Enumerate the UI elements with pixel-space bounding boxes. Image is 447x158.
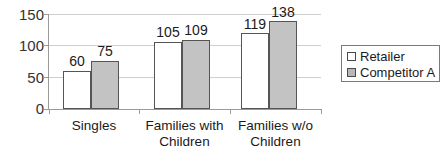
bar-families-wo-children-competitor-a	[269, 21, 297, 109]
x-axis-category-label-families-wo-children: Families w/o Children	[230, 118, 321, 150]
y-axis-tick-label-150: 150	[0, 7, 44, 22]
category-label-families-with-children-line-1: Families with	[145, 118, 223, 133]
bar-label-families-wo-children-retailer: 119	[235, 17, 275, 31]
x-axis-tick-sep-1	[139, 109, 140, 114]
x-axis-category-label-singles: Singles	[49, 118, 139, 134]
category-label-families-with-children-line-2: Children	[139, 134, 230, 150]
x-axis-tick-sep-2	[230, 109, 231, 114]
legend-label-competitor-a: Competitor A	[360, 66, 435, 79]
legend-swatch-competitor-a-icon	[347, 68, 356, 77]
bar-singles-competitor-a	[91, 61, 119, 109]
plot-area: 60 75 105 109 119 138	[49, 14, 321, 109]
bar-label-families-with-children-competitor-a: 109	[176, 23, 216, 37]
x-axis-category-label-families-with-children: Families with Children	[139, 118, 230, 150]
bar-singles-retailer	[63, 71, 91, 109]
legend-swatch-retailer-icon	[347, 52, 356, 61]
category-label-singles-line-1: Singles	[72, 118, 116, 133]
bar-families-with-children-competitor-a	[182, 40, 210, 109]
x-axis-tick-end	[321, 109, 322, 114]
chart-legend: Retailer Competitor A	[341, 45, 440, 82]
y-axis-tick-label-100: 100	[0, 38, 44, 53]
legend-label-retailer: Retailer	[360, 50, 405, 63]
legend-item-competitor-a[interactable]: Competitor A	[347, 65, 439, 80]
bar-label-families-wo-children-competitor-a: 138	[263, 5, 303, 19]
category-label-families-wo-children-line-1: Families w/o	[238, 118, 313, 133]
y-axis-tick-label-50: 50	[0, 70, 44, 85]
y-axis-tick-labels: 150 100 50 0	[0, 0, 44, 158]
bar-families-wo-children-retailer	[241, 33, 269, 109]
category-label-families-wo-children-line-2: Children	[230, 134, 321, 150]
bar-label-singles-competitor-a: 75	[87, 44, 123, 58]
bar-chart: 150 100 50 0 60 75 105 109 119 138 Sing	[0, 0, 447, 158]
x-axis-tick-start	[49, 109, 50, 114]
legend-item-retailer[interactable]: Retailer	[347, 49, 439, 64]
bar-families-with-children-retailer	[154, 42, 182, 109]
x-axis-line	[48, 109, 322, 110]
y-axis-tick-label-0: 0	[0, 101, 44, 116]
